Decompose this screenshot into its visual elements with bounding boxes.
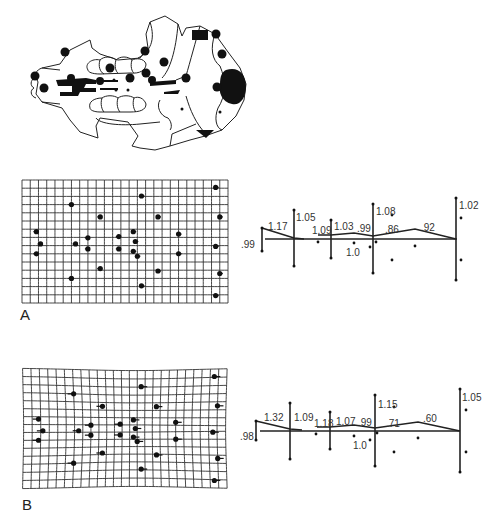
ratio-a-seg6: .92 [421,223,435,233]
ratio-b-mid-low: 1.0 [353,441,367,451]
ratio-b-seg6: .60 [423,414,437,424]
ratio-a-mid-low: 1.0 [346,248,360,258]
ratio-a-seg1: 1.17 [268,222,287,232]
ratio-a-seg4: .99 [357,224,371,234]
ratio-a-seg5: .86 [385,225,399,235]
ratio-a-seg3: 1.03 [334,222,353,232]
ratio-a-bar3-top: 1.08 [376,207,395,217]
ratio-b-left-end: .98 [240,432,254,442]
ratio-b-seg5: .71 [386,419,400,429]
ratio-b-seg3: 1.07 [336,417,355,427]
ratio-a-left-end: .99 [241,240,255,250]
panel-label-b: B [22,496,32,513]
ratio-b-bar1-top: 1.09 [294,413,313,423]
panel-label-a: A [20,306,30,323]
ratio-a-seg2: 1.09 [312,226,331,236]
ratio-b-seg1: 1.32 [264,413,283,423]
ratio-b-seg2: 1.18 [314,419,333,429]
ratio-b-right-top: 1.05 [462,393,481,403]
ratio-b-seg4: .99 [358,418,372,428]
ratio-b-bar3-top: 1.15 [378,400,397,410]
ratio-a-bar1-top: 1.05 [296,213,315,223]
ratio-a-right-top: 1.02 [459,201,478,211]
